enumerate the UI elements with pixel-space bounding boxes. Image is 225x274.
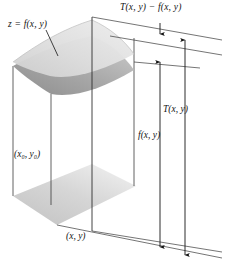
tangent-plane-diagram [0, 0, 225, 274]
label-tangent-value: T(x, y) [163, 105, 188, 115]
label-tangent-minus-function: T(x, y) − f(x, y) [120, 3, 182, 13]
label-evaluation-point: (x, y) [66, 232, 86, 242]
label-base-point: (x₀, y₀) [14, 150, 40, 160]
base-plane [13, 164, 136, 225]
label-surface-equation: z = f(x, y) [8, 20, 47, 30]
label-function-value: f(x, y) [138, 131, 160, 141]
